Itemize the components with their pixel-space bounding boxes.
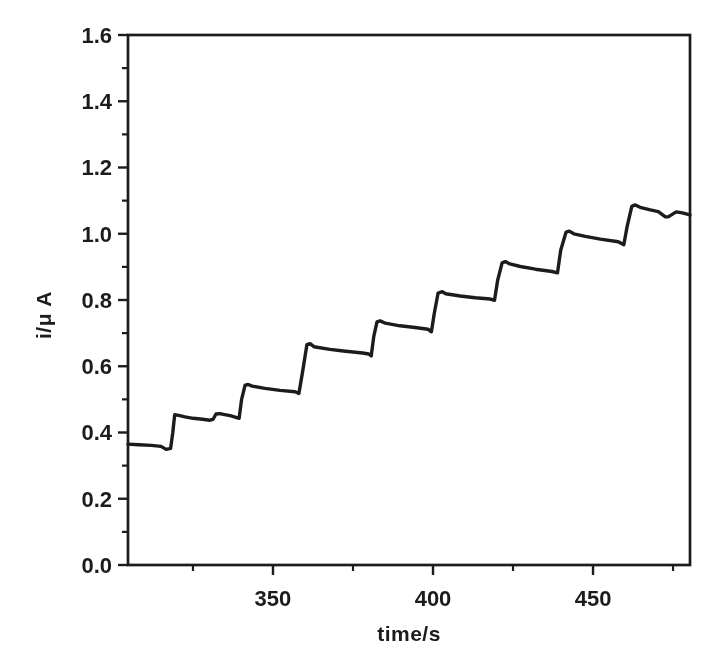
y-tick-label: 1.6 [81, 23, 112, 48]
x-axis-title: time/s [377, 622, 441, 646]
y-tick-label: 0.6 [81, 354, 112, 379]
y-axis-title: i/μ A [32, 291, 56, 339]
y-tick-label: 0.8 [81, 288, 112, 313]
x-tick-label: 450 [575, 586, 612, 611]
x-tick-label: 350 [255, 586, 292, 611]
y-tick-label: 0.2 [81, 487, 112, 512]
y-tick-label: 1.2 [81, 155, 112, 180]
plot-frame [128, 35, 690, 565]
y-tick-label: 1.4 [81, 89, 112, 114]
scanned-figure: 3504004500.00.20.40.60.81.01.21.41.6 tim… [0, 0, 727, 672]
y-tick-label: 0.4 [81, 420, 112, 445]
y-tick-label: 0.0 [81, 553, 112, 578]
x-tick-label: 400 [415, 586, 452, 611]
amperometric-it-chart: 3504004500.00.20.40.60.81.01.21.41.6 [0, 0, 727, 672]
y-tick-label: 1.0 [81, 222, 112, 247]
current-trace [128, 205, 690, 450]
